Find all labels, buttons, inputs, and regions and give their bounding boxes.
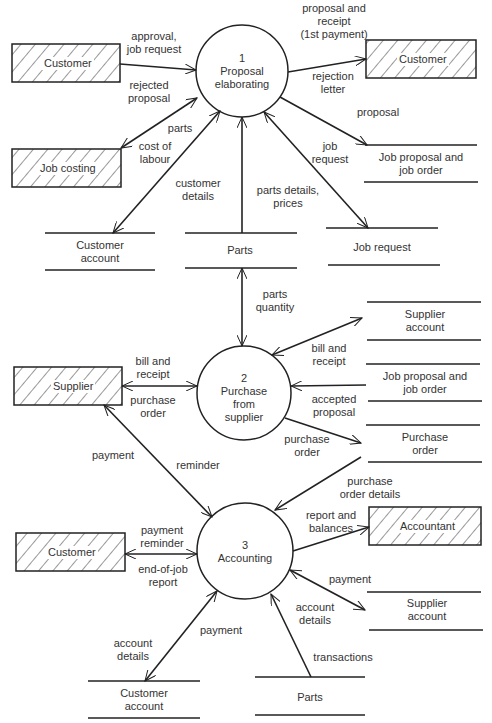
process-1-name: Proposal elaborating [200, 65, 284, 91]
process-1-number: 1 [212, 52, 272, 65]
store-purchase-order[interactable]: Purchase order [370, 431, 480, 457]
flow-label-parts-details-prices: parts details, prices [248, 184, 328, 210]
store-job-proposal-1[interactable]: Job proposal and job order [366, 151, 476, 177]
flow-label-proposal-receipt: proposal and receipt (1st payment) [294, 2, 374, 41]
flow-label-purchase-order-supplier: purchase order [128, 394, 178, 420]
process-2-name: Purchase from supplier [202, 385, 286, 424]
flow-label-customer-details: customer details [168, 177, 228, 203]
store-job-request[interactable]: Job request [332, 241, 432, 254]
flow-label-proposal: proposal [348, 106, 408, 119]
flow-label-end-of-job-report: end-of-job report [133, 563, 193, 589]
store-supplier-account-1[interactable]: Supplier account [370, 308, 480, 334]
store-parts-2[interactable]: Parts [260, 691, 360, 704]
flow-label-rejected-proposal: rejected proposal [124, 79, 174, 105]
entity-accountant-label: Accountant [398, 520, 457, 533]
flow-label-purchase-order-details: purchase order details [330, 475, 410, 501]
process-3-number: 3 [215, 539, 275, 552]
flow-label-account-details-customer: account details [108, 637, 158, 663]
entity-customer-3-label: Customer [46, 546, 98, 559]
flow-label-cost-of-labour: cost of labour [130, 140, 180, 166]
flow-label-purchase-order-store: purchase order [282, 433, 332, 459]
store-job-proposal-2[interactable]: Job proposal and job order [368, 370, 482, 396]
entity-customer-2-label: Customer [397, 53, 449, 66]
flow-label-transactions: transactions [308, 651, 378, 664]
flow-label-approval-job-request: approval, job request [124, 30, 184, 56]
process-2-number: 2 [214, 372, 274, 385]
store-customer-account-2[interactable]: Customer account [94, 687, 194, 713]
flow-label-accepted-proposal: accepted proposal [304, 393, 364, 419]
flow-label-report-balances: report and balances [301, 509, 361, 535]
flow-label-payment-customer: payment [196, 624, 246, 637]
flow-label-parts: parts [160, 122, 200, 135]
store-supplier-account-2[interactable]: Supplier account [372, 597, 482, 623]
flow-label-rejection-letter: rejection letter [308, 70, 358, 96]
flow-label-account-details-supplier: account details [290, 601, 340, 627]
entity-supplier-label: Supplier [51, 380, 95, 393]
flow-label-reminder: reminder [168, 459, 228, 472]
entity-job-costing-label: Job costing [38, 162, 98, 175]
store-customer-account-1[interactable]: Customer account [50, 239, 150, 265]
flow-label-bill-receipt-account: bill and receipt [304, 342, 354, 368]
flow-label-payment-supplier-account: payment [325, 573, 375, 586]
process-3-name: Accounting [203, 552, 287, 565]
flow-label-job-request: job request [305, 140, 355, 166]
entity-customer-1-label: Customer [42, 57, 94, 70]
flow-label-payment-reminder: payment reminder [134, 524, 190, 550]
flow-label-bill-receipt-supplier: bill and receipt [128, 355, 178, 381]
flow-label-payment-supplier: payment [88, 449, 138, 462]
flow-label-parts-quantity: parts quantity [250, 288, 300, 314]
store-parts-1[interactable]: Parts [190, 244, 290, 257]
